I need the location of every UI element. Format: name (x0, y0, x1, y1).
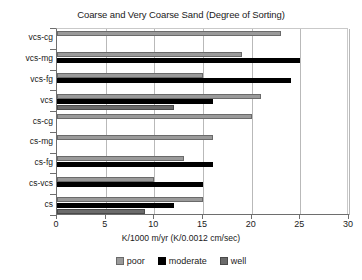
legend-swatch-well (220, 257, 228, 265)
legend-item-moderate[interactable]: moderate (158, 256, 207, 266)
bar-group (57, 112, 347, 133)
bar-vcs-moderate (57, 99, 213, 104)
y-tick-label-cs-mg: cs-mg (1, 136, 53, 146)
y-tick-label-cs-fg: cs-fg (1, 157, 53, 167)
y-tick-label-cs-vcs: cs-vcs (1, 178, 53, 188)
legend-label-well: well (231, 256, 247, 266)
legend-item-poor[interactable]: poor (116, 256, 145, 266)
chart-legend: poormoderatewell (0, 256, 362, 266)
bar-cs-fg-poor (57, 156, 184, 161)
bar-cs-vcs-poor (57, 177, 154, 182)
bar-cs-poor (57, 197, 203, 202)
bar-rows (57, 29, 347, 215)
bar-vcs-mg-moderate (57, 58, 300, 63)
x-axis-title: K/1000 m/yr (K/0.0012 cm/sec) (0, 233, 362, 243)
y-tick-label-vcs: vcs (1, 95, 53, 105)
y-tick-label-vcs-fg: vcs-fg (1, 74, 53, 84)
bar-group (57, 154, 347, 175)
bar-vcs-well (57, 105, 174, 110)
y-tick-label-vcs-mg: vcs-mg (1, 53, 53, 63)
bar-cs-moderate (57, 203, 174, 208)
bar-vcs-fg-poor (57, 73, 203, 78)
y-tick-label-vcs-cg: vcs-cg (1, 32, 53, 42)
bar-cs-mg-poor (57, 135, 213, 140)
bar-vcs-cg-poor (57, 31, 281, 36)
chart-title: Coarse and Very Coarse Sand (Degree of S… (0, 9, 362, 20)
bar-group (57, 91, 347, 112)
x-tick-label-5: 5 (90, 219, 120, 229)
bar-vcs-fg-moderate (57, 78, 291, 83)
bar-group (57, 174, 347, 195)
gridline (349, 29, 350, 215)
plot-area (56, 28, 348, 215)
legend-swatch-poor (116, 257, 124, 265)
x-axis-ticks: 051015202530 (0, 215, 362, 227)
bar-group (57, 133, 347, 154)
x-tick-label-30: 30 (333, 219, 362, 229)
bar-cs-vcs-moderate (57, 182, 203, 187)
y-tick-label-cs: cs (1, 199, 53, 209)
bar-cs-cg-poor (57, 114, 252, 119)
bar-vcs-mg-poor (57, 52, 242, 57)
bar-cs-fg-moderate (57, 162, 213, 167)
legend-label-poor: poor (127, 256, 145, 266)
bar-group (57, 71, 347, 92)
y-tick-label-cs-cg: cs-cg (1, 116, 53, 126)
legend-swatch-moderate (158, 257, 166, 265)
bar-group (57, 195, 347, 216)
x-tick-label-15: 15 (187, 219, 217, 229)
bar-group (57, 50, 347, 71)
bar-chart: Coarse and Very Coarse Sand (Degree of S… (0, 0, 362, 280)
x-tick-label-0: 0 (41, 219, 71, 229)
bar-group (57, 29, 347, 50)
x-tick-label-20: 20 (236, 219, 266, 229)
legend-label-moderate: moderate (169, 256, 207, 266)
bar-vcs-poor (57, 94, 261, 99)
legend-item-well[interactable]: well (220, 256, 247, 266)
y-axis-labels: vcs-cgvcs-mgvcs-fgvcscs-cgcs-mgcs-fgcs-v… (0, 28, 53, 215)
x-tick-label-10: 10 (138, 219, 168, 229)
x-tick-label-25: 25 (284, 219, 314, 229)
